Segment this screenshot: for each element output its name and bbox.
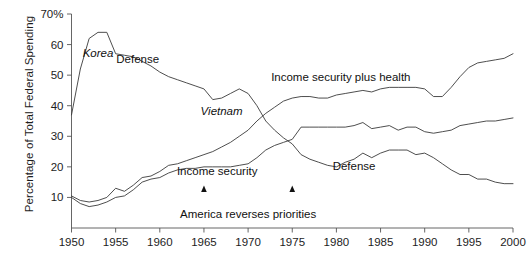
series-label-defense: Defense [333, 160, 376, 172]
x-tick-label: 1990 [412, 236, 438, 248]
x-tick-label: 1950 [59, 236, 85, 248]
x-tick-label: 1955 [103, 236, 129, 248]
series-label-vietnam: Vietnam [201, 105, 243, 117]
x-tick-label: 2000 [500, 236, 526, 248]
y-tick-label: 70% [40, 8, 63, 20]
y-tick-label: 10 [51, 191, 64, 203]
chart-axes [67, 14, 513, 233]
chart-annotations: America reverses priorities [180, 186, 316, 220]
series-line-income-security [72, 118, 514, 207]
chart-series-labels: KoreaDefenseVietnamIncome security plus … [83, 47, 411, 177]
annotation-label: America reverses priorities [180, 208, 316, 220]
annotation-arrow-right-icon [289, 186, 295, 193]
axis-lines [72, 14, 514, 228]
x-tick-label: 1965 [191, 236, 217, 248]
annotation-bracket [204, 190, 292, 203]
annotation-arrow-left-icon [201, 186, 207, 193]
x-tick-label: 1985 [368, 236, 394, 248]
y-tick-label: 40 [51, 100, 64, 112]
series-label-defense: Defense [116, 53, 159, 65]
x-tick-label: 1970 [235, 236, 261, 248]
x-axis-tick-labels: 1950195519601965197019751980198519901995… [59, 236, 526, 248]
x-tick-label: 1995 [456, 236, 482, 248]
y-tick-label: 30 [51, 130, 64, 142]
y-tick-label: 20 [51, 161, 64, 173]
y-axis-tick-labels: 70%605040302010 [40, 8, 63, 203]
y-tick-label: 50 [51, 69, 64, 81]
x-tick-label: 1980 [324, 236, 350, 248]
series-label-income-security: Income security [177, 165, 258, 177]
series-label-income-security-plus-health: Income security plus health [271, 71, 410, 83]
series-label-korea: Korea [83, 47, 114, 59]
x-tick-label: 1975 [279, 236, 305, 248]
chart-figure: Percentage of Total Federal Spending 70%… [0, 0, 529, 261]
y-tick-label: 60 [51, 39, 64, 51]
chart-canvas: 70%605040302010 195019551960196519701975… [0, 0, 529, 261]
x-tick-label: 1960 [147, 236, 173, 248]
